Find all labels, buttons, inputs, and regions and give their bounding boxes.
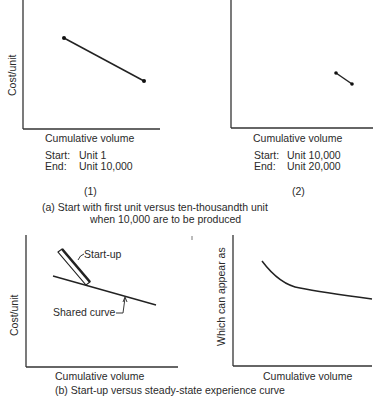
shared-curve-label: Shared curve bbox=[53, 306, 115, 318]
caption-a-line2: when 10,000 are to be produced bbox=[90, 213, 241, 225]
chart3-xlabel: Cumulative volume bbox=[55, 370, 144, 382]
chart2-axes bbox=[231, 0, 373, 128]
startup-label: Start-up bbox=[84, 248, 121, 260]
chart2-end-value: Unit 20,000 bbox=[287, 160, 341, 172]
chart2-line bbox=[334, 71, 354, 86]
chart1-ylabel: Cost/unit bbox=[6, 55, 18, 96]
chart4-xlabel: Cumulative volume bbox=[263, 370, 352, 382]
chart1-axes bbox=[23, 0, 160, 129]
caption-a-line1: (a) Start with first unit versus ten-tho… bbox=[42, 201, 268, 213]
chart1-end-value: Unit 10,000 bbox=[79, 160, 133, 172]
chart2-number: (2) bbox=[292, 185, 305, 197]
chart1-end-label: End: bbox=[45, 160, 67, 172]
chart4-ylabel: Which can appear as bbox=[215, 247, 227, 346]
chart4-axes bbox=[233, 235, 372, 366]
chart2-end-label: End: bbox=[254, 160, 276, 172]
chart1-line bbox=[62, 36, 146, 83]
chart3-ylabel: Cost/unit bbox=[8, 295, 20, 336]
chart1-number: (1) bbox=[84, 185, 97, 197]
chart4-curve bbox=[262, 261, 372, 299]
caption-b: (b) Start-up versus steady-state experie… bbox=[55, 384, 285, 396]
chart1-xlabel: Cumulative volume bbox=[45, 132, 134, 144]
chart2-xlabel: Cumulative volume bbox=[253, 132, 342, 144]
